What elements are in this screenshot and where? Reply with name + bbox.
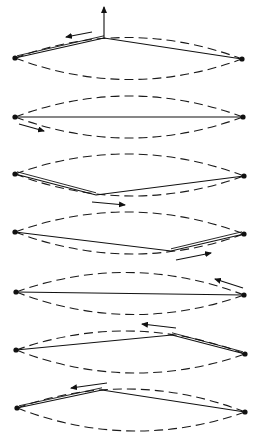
lower-envelope — [15, 117, 243, 138]
kink-direction-icon — [92, 202, 125, 205]
fixed-end-right-icon — [241, 173, 246, 178]
kink-direction-icon — [142, 324, 176, 328]
kink-direction-icon — [66, 32, 92, 37]
fixed-end-left-icon — [12, 114, 17, 119]
snapshot-panel-4 — [12, 212, 246, 260]
snapshot-panels — [12, 7, 247, 431]
fixed-end-right-icon — [242, 409, 247, 414]
snapshot-panel-1 — [12, 7, 244, 80]
fixed-end-right-icon — [241, 292, 246, 297]
upper-envelope — [16, 331, 245, 354]
fixed-end-left-icon — [12, 55, 17, 60]
string-double-line — [171, 232, 242, 249]
snapshot-panel-6 — [13, 324, 247, 388]
lower-envelope — [15, 232, 244, 254]
string-double-line — [17, 172, 96, 193]
kink-direction-icon — [176, 253, 211, 260]
fixed-end-left-icon — [12, 229, 17, 234]
kink-direction-icon — [215, 279, 243, 288]
upper-envelope — [15, 154, 244, 176]
fixed-end-right-icon — [240, 114, 245, 119]
lower-envelope — [17, 408, 245, 431]
fixed-end-left-icon — [14, 405, 19, 410]
kink-direction-icon — [19, 124, 44, 131]
diagram-canvas — [0, 0, 263, 442]
upper-envelope — [15, 96, 243, 117]
snapshot-panel-7 — [14, 388, 247, 431]
string-shape — [16, 335, 245, 354]
snapshot-panel-3 — [12, 154, 246, 205]
snapshot-panel-2 — [12, 96, 245, 138]
upper-envelope — [16, 272, 244, 295]
lower-envelope — [15, 58, 242, 80]
lower-envelope — [16, 292, 244, 315]
fixed-end-left-icon — [13, 289, 18, 294]
kink-direction-icon — [71, 383, 107, 388]
fixed-end-right-icon — [239, 56, 244, 61]
string-shape — [16, 292, 244, 295]
string-shape — [15, 232, 244, 251]
fixed-end-right-icon — [242, 351, 247, 356]
string-double-line — [19, 388, 102, 406]
fixed-end-left-icon — [13, 347, 18, 352]
snapshot-panel-5 — [13, 272, 246, 314]
upper-envelope — [15, 212, 244, 234]
string-double-line — [172, 333, 243, 352]
fixed-end-left-icon — [12, 171, 17, 176]
lower-envelope — [16, 350, 245, 373]
helmholtz-motion-diagram — [0, 0, 263, 442]
fixed-end-right-icon — [241, 231, 246, 236]
string-double-line — [17, 36, 104, 56]
lower-envelope — [15, 174, 244, 196]
